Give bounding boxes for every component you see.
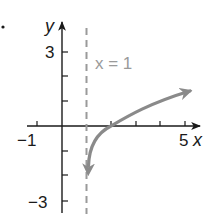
x-axis-label: x: [192, 130, 203, 150]
y-tick-label-3: 3: [45, 43, 54, 62]
bullet-marker: [1, 25, 4, 28]
y-axis-label: y: [43, 16, 55, 36]
asymptote-label: x = 1: [95, 54, 132, 73]
log-curve: [89, 91, 191, 166]
chart: y x 3 −3 −1 5 x = 1: [0, 0, 211, 224]
x-tick-label-neg1: −1: [17, 131, 36, 150]
x-tick-label-5: 5: [179, 131, 188, 150]
y-tick-label-neg3: −3: [28, 193, 47, 212]
